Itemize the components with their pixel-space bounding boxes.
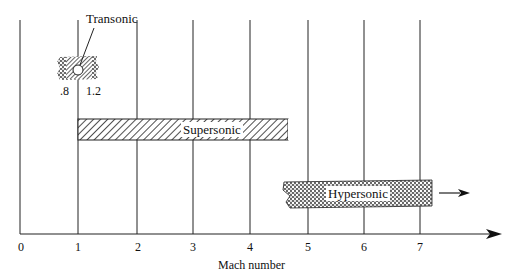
tick-1: 1 (75, 240, 81, 255)
transonic-point-icon (73, 65, 83, 75)
x-axis-label: Mach number (218, 258, 285, 272)
supersonic-label: Supersonic (181, 122, 243, 137)
tick-6: 6 (361, 240, 367, 255)
tick-5: 5 (305, 240, 311, 255)
mach-regime-diagram (0, 0, 518, 280)
tick-3: 3 (190, 240, 196, 255)
transonic-lower-bound: .8 (60, 84, 69, 98)
tick-0: 0 (18, 240, 24, 255)
tick-2: 2 (135, 240, 141, 255)
tick-4: 4 (247, 240, 253, 255)
hypersonic-label: Hypersonic (326, 186, 390, 201)
tick-7: 7 (417, 240, 423, 255)
x-axis (20, 229, 502, 239)
transonic-label: Transonic (86, 12, 138, 26)
transonic-upper-bound: 1.2 (86, 84, 101, 98)
